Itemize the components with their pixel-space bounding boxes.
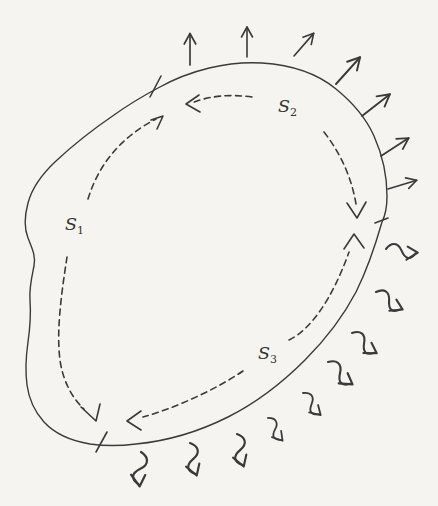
surface-flux-diagram: S1 S2 S3 (0, 0, 438, 506)
scanned-figure-page: S1 S2 S3 (0, 0, 438, 506)
